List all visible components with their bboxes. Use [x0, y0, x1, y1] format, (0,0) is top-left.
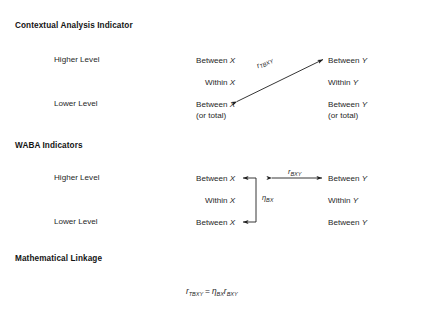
equation-lhs-sub: TBXY: [189, 291, 203, 297]
waba-left-within-text: Within: [205, 196, 228, 205]
contextual-left-higher-text: Between: [196, 56, 228, 65]
contextual-right-lower: Between Y (or total): [328, 99, 367, 121]
waba-left-within: Within X: [205, 195, 235, 206]
contextual-left-higher-var: X: [230, 56, 235, 65]
contextual-right-within: Within Y: [328, 77, 358, 88]
waba-left-lower: Between X: [196, 217, 235, 228]
waba-left-lower-var: X: [230, 218, 235, 227]
equation-rhs1-sub: BX: [217, 291, 224, 297]
contextual-diagonal-arrow: [237, 60, 323, 102]
contextual-right-higher-var: Y: [362, 56, 367, 65]
waba-right-lower-text: Between: [328, 218, 360, 227]
equation-rhs2-sub: BXY: [227, 291, 238, 297]
arrows-overlay: [0, 0, 428, 326]
contextual-left-within-text: Within: [205, 78, 228, 87]
waba-level-higher: Higher Level: [54, 173, 99, 182]
contextual-right-lower-note: (or total): [328, 111, 358, 120]
contextual-right-higher: Between Y: [328, 55, 367, 66]
rule-bottom: [13, 308, 415, 310]
contextual-left-lower-text: Between: [196, 100, 228, 109]
section-title-waba: WABA Indicators: [15, 141, 83, 150]
section-title-linkage: Mathematical Linkage: [15, 254, 102, 263]
waba-horizontal-arrow-label: rBXY: [288, 167, 301, 177]
contextual-left-lower: Between X (or total): [196, 99, 235, 121]
waba-vertical-bracket-label: ηBX: [262, 193, 273, 203]
waba-right-lower-var: Y: [362, 218, 367, 227]
contextual-level-lower: Lower Level: [54, 99, 98, 108]
contextual-arrow-label-sub: TBXY: [259, 58, 274, 69]
rule-between-waba-linkage: [13, 242, 415, 244]
section-title-contextual: Contextual Analysis Indicator: [15, 21, 133, 30]
waba-right-higher-text: Between: [328, 174, 360, 183]
waba-left-higher: Between X: [196, 173, 235, 184]
waba-left-higher-var: X: [230, 174, 235, 183]
waba-left-within-var: X: [230, 196, 235, 205]
waba-right-within-var: Y: [353, 196, 358, 205]
contextual-left-within-var: X: [230, 78, 235, 87]
contextual-right-within-var: Y: [353, 78, 358, 87]
waba-right-higher-var: Y: [362, 174, 367, 183]
rule-top: [13, 12, 415, 14]
contextual-right-lower-text: Between: [328, 100, 360, 109]
rule-between-contextual-waba: [13, 129, 415, 131]
waba-vertical-bracket: [243, 178, 256, 222]
waba-horizontal-label-sub: BXY: [290, 171, 301, 177]
waba-right-within: Within Y: [328, 195, 358, 206]
contextual-left-higher: Between X: [196, 55, 235, 66]
waba-right-higher: Between Y: [328, 173, 367, 184]
linkage-equation: rTBXY=ηBXrBXY: [186, 286, 238, 297]
contextual-arrow-label: rTBXY: [255, 55, 274, 71]
waba-left-lower-text: Between: [196, 218, 228, 227]
contextual-right-within-text: Within: [328, 78, 351, 87]
figure-container: Contextual Analysis Indicator Higher Lev…: [0, 0, 428, 326]
contextual-right-higher-text: Between: [328, 56, 360, 65]
waba-left-higher-text: Between: [196, 174, 228, 183]
contextual-left-within: Within X: [205, 77, 235, 88]
contextual-left-lower-var: X: [230, 100, 235, 109]
contextual-left-lower-note: (or total): [196, 111, 226, 120]
contextual-right-lower-var: Y: [362, 100, 367, 109]
equation-operator: =: [203, 286, 212, 296]
contextual-level-higher: Higher Level: [54, 55, 99, 64]
waba-level-lower: Lower Level: [54, 217, 98, 226]
waba-vertical-label-sub: BX: [266, 197, 273, 203]
waba-right-lower: Between Y: [328, 217, 367, 228]
waba-right-within-text: Within: [328, 196, 351, 205]
